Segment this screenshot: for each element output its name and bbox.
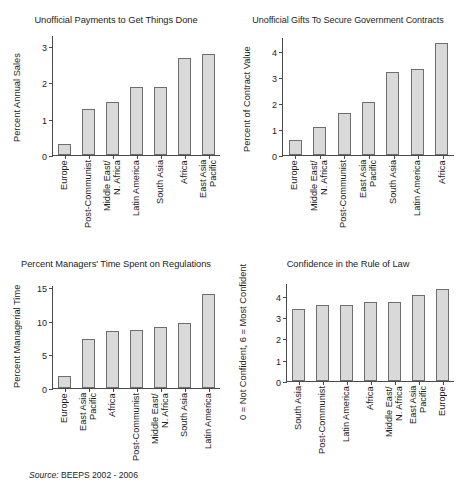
x-axis-label: Africa [107, 393, 117, 461]
x-axis-label-slot: Post-Communist [76, 160, 100, 228]
x-axis-label-slot: East Asia Pacific [356, 160, 381, 228]
x-axis-tick [161, 155, 162, 159]
x-axis-label: Middle East/ N. Africa [384, 386, 404, 454]
bar[interactable] [202, 294, 215, 388]
bar[interactable] [178, 323, 191, 388]
bar[interactable] [292, 309, 305, 381]
x-axis-tick [295, 155, 296, 159]
bar[interactable] [58, 376, 71, 388]
x-axis-tick [394, 155, 395, 159]
bar[interactable] [338, 113, 351, 155]
x-axis-label: Europe [59, 393, 69, 461]
x-axis-tick [185, 155, 186, 159]
bar[interactable] [106, 102, 119, 155]
bar[interactable] [340, 305, 353, 381]
x-axis-label: South Asia [388, 160, 398, 228]
x-axis-label: South Asia [155, 160, 165, 228]
x-axis-tick [137, 155, 138, 159]
x-axis-label-slot: Latin America [334, 386, 358, 454]
y-axis-tick: 0 [49, 156, 53, 157]
x-axis-tick [299, 381, 300, 385]
x-axis-tick [161, 388, 162, 392]
bar[interactable] [313, 127, 326, 155]
y-axis-tick-label: 0 [42, 386, 47, 395]
chart-title: Percent Managers' Time Spent on Regulati… [0, 258, 232, 270]
y-axis-tick-label: 0 [276, 379, 281, 388]
x-axis-label-slot: Latin America [124, 160, 148, 228]
bar[interactable] [411, 69, 424, 155]
x-axis-label: South Asia [179, 393, 189, 461]
x-axis-tick [344, 155, 345, 159]
bar-slot [382, 284, 406, 381]
x-axis-tick [113, 388, 114, 392]
bar-slot [101, 286, 125, 388]
x-axis-tick [65, 388, 66, 392]
bar[interactable] [178, 58, 191, 155]
chart-panel-unofficial-gifts: Unofficial Gifts To Secure Government Co… [232, 0, 464, 244]
bar[interactable] [289, 140, 302, 155]
bar[interactable] [362, 102, 375, 155]
chart-title: Unofficial Gifts To Secure Government Co… [232, 14, 464, 26]
x-axis-label-slot: Europe [52, 393, 76, 461]
x-axis-label-slot: East Asia Pacific [406, 386, 430, 454]
bar-slot [335, 284, 359, 381]
x-axis-label-slot: Europe [52, 160, 76, 228]
x-axis-tick [209, 155, 210, 159]
bar-slot [406, 284, 430, 381]
bar[interactable] [130, 330, 143, 388]
x-axis-tick [320, 155, 321, 159]
x-axis-tick [137, 388, 138, 392]
bar[interactable] [364, 302, 377, 381]
y-axis-tick-label: 1 [272, 127, 277, 136]
x-axis-tick [418, 155, 419, 159]
y-axis-label: Percent of Contract Value [242, 36, 252, 162]
bar[interactable] [316, 305, 329, 381]
x-axis-tick [443, 155, 444, 159]
x-axis-label-slot: Post-Communist [331, 160, 356, 228]
x-axis-tick [323, 381, 324, 385]
x-axis-tick [395, 381, 396, 385]
y-axis-tick-label: 5 [42, 352, 47, 361]
x-axis-label: Post-Communist [338, 160, 348, 228]
bar[interactable] [58, 144, 71, 155]
bar[interactable] [436, 289, 449, 381]
bar-slot [287, 284, 311, 381]
bar[interactable] [202, 54, 215, 155]
y-axis-tick-label: 4 [276, 293, 281, 302]
chart-panel-managers-time: Percent Managers' Time Spent on Regulati… [0, 244, 232, 488]
bar[interactable] [130, 87, 143, 155]
bar-slot [172, 36, 196, 155]
bar[interactable] [386, 72, 399, 155]
bar-slot [283, 38, 307, 155]
x-axis-tick [89, 155, 90, 159]
x-axis-label-slot: Middle East/ N. Africa [100, 160, 124, 228]
x-axis-tick [185, 388, 186, 392]
bar-slot [430, 284, 454, 381]
bar-slot [359, 284, 383, 381]
x-axis-label: East Asia Pacific [358, 160, 378, 228]
bar[interactable] [435, 43, 448, 155]
bar-slot [53, 286, 77, 388]
bar[interactable] [388, 302, 401, 381]
bar[interactable] [82, 109, 95, 155]
bar[interactable] [412, 295, 425, 381]
x-axis-label-slot: Africa [429, 160, 454, 228]
bar[interactable] [154, 87, 167, 155]
x-axis-label-slot: Middle East/ N. Africa [148, 393, 172, 461]
x-axis-label-slot: Europe [430, 386, 454, 454]
bar[interactable] [82, 339, 95, 388]
x-axis-label: Latin America [412, 160, 422, 228]
x-axis-label-slot: Post-Communist [310, 386, 334, 454]
bar-slot [101, 36, 125, 155]
bar[interactable] [154, 327, 167, 388]
x-axis-tick [209, 388, 210, 392]
x-axis-label-slot: South Asia [286, 386, 310, 454]
x-axis-label: Latin America [203, 393, 213, 461]
bar-series [287, 284, 454, 381]
x-axis-label: Middle East/ N. Africa [150, 393, 170, 461]
x-axis-tick [369, 155, 370, 159]
bar-slot [311, 284, 335, 381]
bar[interactable] [106, 331, 119, 388]
y-axis-tick: 2 [279, 104, 283, 105]
bar-slot [53, 36, 77, 155]
